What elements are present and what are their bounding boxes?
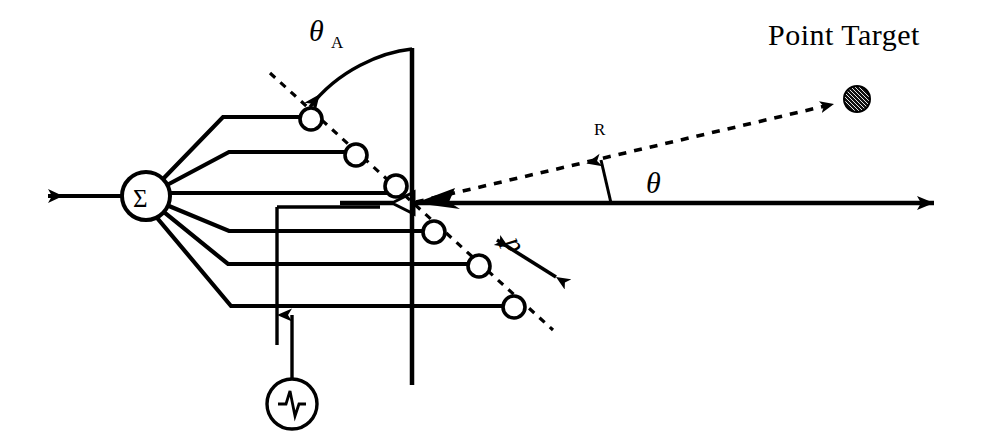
feed-line-2 (167, 152, 351, 185)
array-element-2 (345, 144, 367, 166)
theta-angle-arrow (601, 160, 611, 203)
phased-array-diagram: Point Target θ A θ R d Σ (0, 0, 983, 445)
theta-a-subscript-label: A (331, 34, 343, 51)
range-symbol-label: R (594, 121, 605, 138)
feed-network (158, 117, 509, 306)
range-arrowhead-at-array (415, 188, 460, 209)
diagram-canvas (0, 0, 983, 445)
array-element-3 (385, 175, 407, 197)
summer-symbol-label: Σ (133, 186, 148, 211)
array-element-1 (300, 108, 322, 130)
array-element-4 (423, 221, 445, 243)
theta-a-symbol-label: θ (309, 16, 324, 46)
array-element-5 (468, 255, 490, 277)
theta-a-curved-arrow (310, 49, 412, 107)
feed-line-1 (163, 117, 306, 179)
point-target-dot (844, 86, 870, 112)
array-element-6 (503, 296, 525, 318)
range-line-dashed (416, 104, 834, 202)
point-target-label: Point Target (768, 20, 920, 50)
feed-line-4 (169, 206, 430, 231)
theta-symbol-label: θ (646, 168, 661, 198)
